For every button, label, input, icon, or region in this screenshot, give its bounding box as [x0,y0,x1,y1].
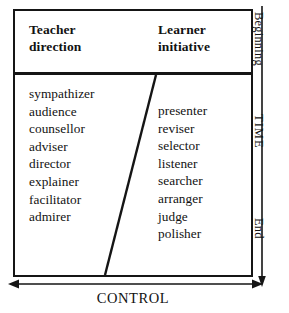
matrix-box: Teacherdirection Learnerinitiative sympa… [13,9,253,277]
time-axis: Beginning TIME End [258,6,289,287]
list-item: explainer [29,173,95,191]
time-axis-label-end: End [251,218,266,239]
heading-line-2: direction [29,39,81,54]
teacher-direction-role-list: sympathizer audience counsellor adviser … [29,85,95,226]
time-axis-label: TIME [251,114,266,149]
list-item: listener [158,155,207,173]
list-item: searcher [158,172,207,190]
list-item: reviser [158,120,207,138]
list-item: sympathizer [29,85,95,103]
list-item: polisher [158,225,207,243]
time-axis-label-beginning: Beginning [251,12,266,66]
list-item: presenter [158,102,207,120]
list-item: arranger [158,190,207,208]
list-item: selector [158,137,207,155]
column-heading-teacher-direction: Teacherdirection [29,21,81,55]
list-item: director [29,155,95,173]
list-item: counsellor [29,120,95,138]
list-item: audience [29,103,95,121]
control-axis-label: CONTROL [0,290,266,307]
header-band: Teacherdirection Learnerinitiative [15,11,251,75]
heading-line-1: Learner [158,22,206,37]
list-item: admirer [29,208,95,226]
heading-line-1: Teacher [29,22,76,37]
column-heading-learner-initiative: Learnerinitiative [158,21,210,55]
list-item: judge [158,208,207,226]
learner-initiative-role-list: presenter reviser selector listener sear… [158,102,207,243]
list-item: adviser [29,138,95,156]
role-lists-region: sympathizer audience counsellor adviser … [15,75,251,275]
list-item: facilitator [29,191,95,209]
heading-line-2: initiative [158,39,210,54]
diagram-canvas: Teacherdirection Learnerinitiative sympa… [0,0,289,313]
